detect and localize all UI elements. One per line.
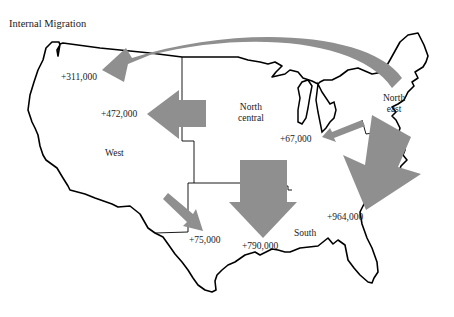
region-label-northeast-line2: east [383, 104, 405, 115]
lake-michigan [298, 80, 312, 124]
region-label-north-central-line2: central [238, 113, 264, 124]
region-label-northeast-line1: North [383, 93, 405, 104]
region-label-northeast: North east [383, 93, 405, 115]
arrow-northeast-to-west [102, 37, 402, 88]
flow-label-northeast-to-west: +311,000 [61, 72, 97, 83]
arrow-north-central-to-west [147, 90, 206, 139]
michigan-peninsula [316, 84, 336, 132]
flow-label-northeast-to-south: +964,000 [327, 212, 363, 223]
arrow-west-to-south [163, 193, 203, 231]
flow-label-west-to-south: +75,000 [189, 235, 220, 246]
region-label-north-central: North central [238, 102, 264, 124]
flow-label-northeast-to-north-central: +67,000 [280, 134, 311, 145]
flow-label-north-central-to-west: +472,000 [101, 109, 137, 120]
us-migration-map [0, 0, 454, 317]
flow-label-north-central-to-south: +790,000 [242, 241, 278, 252]
map-title: Internal Migration [9, 18, 86, 29]
region-label-west: West [105, 148, 124, 159]
region-label-north-central-line1: North [238, 102, 264, 113]
region-label-south: South [294, 228, 316, 239]
arrow-north-central-to-south [229, 160, 297, 238]
